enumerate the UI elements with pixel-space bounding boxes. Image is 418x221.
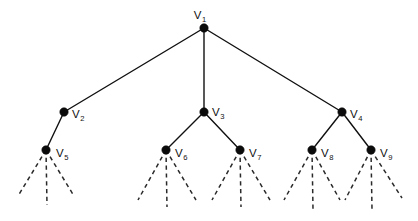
tree-node-v5 — [42, 146, 50, 154]
tree-node-v8 — [308, 146, 316, 154]
tree-node-v4 — [338, 108, 346, 116]
tree-node-v2 — [60, 108, 68, 116]
tree-node-v3 — [200, 108, 208, 116]
tree-diagram-figure: V1V2V3V4V5V6V7V8V9 — [0, 0, 418, 221]
tree-node-v1 — [200, 24, 208, 32]
tree-node-v7 — [236, 146, 244, 154]
tree-node-v9 — [367, 146, 375, 154]
tree-diagram-canvas: V1V2V3V4V5V6V7V8V9 — [0, 0, 418, 221]
tree-node-v6 — [162, 146, 170, 154]
